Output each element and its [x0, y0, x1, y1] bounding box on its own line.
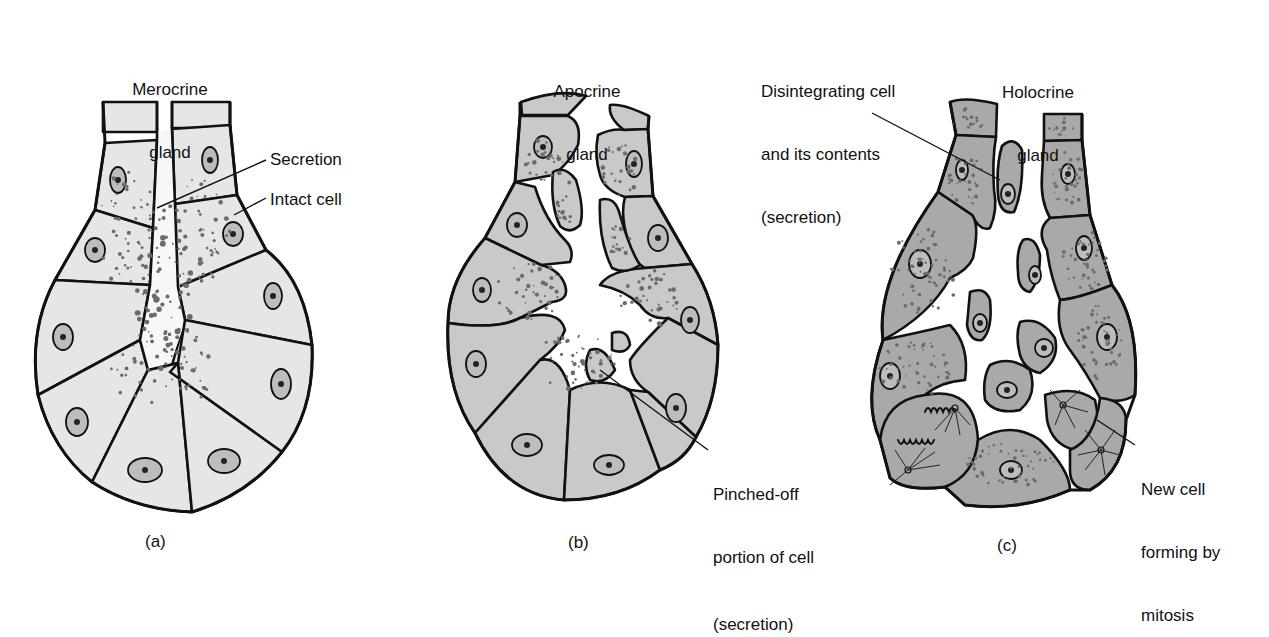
granule-dot — [648, 286, 652, 290]
label-pinched-off-portion: Pinched-off portion of cell (secretion) — [713, 442, 814, 637]
granule-dot — [547, 301, 551, 305]
granule-dot — [198, 261, 203, 266]
granule-dot — [902, 294, 904, 296]
granule-dot — [600, 359, 603, 362]
granule-dot — [186, 361, 188, 363]
granule-dot — [931, 345, 934, 348]
granule-dot — [126, 185, 129, 188]
granule-dot — [672, 304, 674, 306]
granule-dot — [142, 277, 146, 281]
granule-dot — [127, 231, 131, 235]
granule-dot — [993, 444, 995, 446]
granule-dot — [611, 227, 613, 229]
granule-dot — [184, 356, 186, 358]
granule-dot — [1105, 340, 1107, 342]
granule-dot — [965, 173, 967, 175]
granule-dot — [530, 318, 532, 320]
granule-dot — [1082, 345, 1086, 349]
granule-dot — [1086, 259, 1088, 261]
granule-dot — [908, 365, 910, 367]
granule-dot — [1091, 309, 1094, 312]
granule-dot — [904, 304, 908, 308]
granule-dot — [926, 388, 928, 390]
granule-dot — [573, 362, 577, 366]
pinched-off-fragment — [612, 332, 630, 352]
granule-dot — [213, 239, 216, 242]
granule-dot — [148, 331, 150, 333]
apocrine-title: Apocrine gland — [532, 39, 642, 186]
granule-dot — [948, 178, 950, 180]
granule-dot — [975, 196, 978, 199]
granule-dot — [1098, 242, 1101, 245]
granule-dot — [555, 274, 557, 276]
granule-dot — [1083, 263, 1085, 265]
granule-dot — [111, 200, 113, 202]
granule-dot — [979, 454, 983, 458]
granule-dot — [212, 251, 214, 253]
granule-dot — [1049, 457, 1051, 459]
granule-dot — [581, 387, 583, 389]
granule-dot — [187, 292, 191, 296]
granule-dot — [228, 230, 232, 234]
granule-dot — [902, 385, 906, 389]
granule-dot — [148, 237, 150, 239]
granule-dot — [195, 336, 198, 339]
label-line: portion of cell — [713, 547, 814, 568]
granule-dot — [1106, 331, 1109, 334]
granule-dot — [192, 368, 196, 372]
granule-dot — [622, 247, 624, 249]
granule-dot — [888, 352, 890, 354]
granule-dot — [527, 311, 532, 316]
granule-dot — [1093, 374, 1097, 378]
granule-dot — [188, 270, 193, 275]
granule-dot — [1097, 283, 1101, 287]
granule-dot — [140, 206, 142, 208]
granule-dot — [628, 237, 631, 240]
granule-dot — [1115, 363, 1118, 366]
granule-dot — [907, 269, 909, 271]
granule-dot — [651, 309, 653, 311]
granule-dot — [566, 375, 569, 378]
granule-dot — [1003, 475, 1005, 477]
granule-dot — [1014, 449, 1017, 452]
granule-dot — [975, 160, 978, 163]
granule-dot — [112, 230, 116, 234]
granule-dot — [1027, 465, 1030, 468]
granule-dot — [177, 239, 181, 243]
granule-dot — [981, 450, 984, 453]
title-line: gland — [110, 142, 230, 163]
granule-dot — [614, 225, 617, 228]
granule-dot — [949, 270, 951, 272]
granule-dot — [1077, 242, 1080, 245]
granule-dot — [1008, 453, 1010, 455]
granule-dot — [156, 247, 158, 249]
panel-letter-b: (b) — [568, 533, 589, 553]
granule-dot — [195, 367, 197, 369]
label-line: and its contents — [761, 144, 895, 165]
granule-dot — [927, 275, 930, 278]
granule-dot — [895, 343, 899, 347]
panel-letter-c: (c) — [997, 536, 1017, 556]
granule-dot — [619, 227, 623, 231]
granule-dot — [109, 277, 113, 281]
granule-dot — [943, 275, 946, 278]
granule-dot — [934, 365, 936, 367]
granule-dot — [1092, 242, 1094, 244]
granule-dot — [164, 362, 167, 365]
granule-dot — [210, 253, 213, 256]
granule-dot — [919, 250, 922, 253]
granule-dot — [140, 361, 144, 365]
granule-dot — [135, 310, 140, 315]
granule-dot — [150, 334, 154, 338]
granule-dot — [1086, 326, 1090, 330]
granule-dot — [950, 174, 952, 176]
granule-dot — [1115, 334, 1117, 336]
granule-dot — [169, 257, 171, 259]
granule-dot — [620, 305, 623, 308]
granule-dot — [1104, 265, 1107, 268]
granule-dot — [497, 280, 500, 283]
granule-dot — [613, 236, 616, 239]
granule-dot — [140, 388, 143, 391]
granule-dot — [914, 250, 917, 253]
granule-dot — [584, 369, 586, 371]
